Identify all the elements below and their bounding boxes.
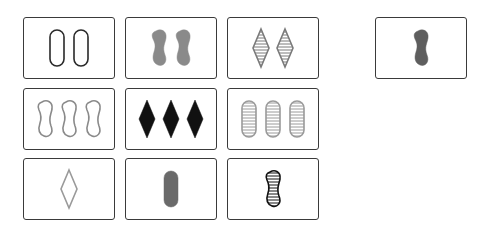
oval-solid-icon (161, 168, 181, 210)
card-6[interactable] (227, 88, 319, 150)
diamond-striped-icon (251, 27, 295, 69)
diamond-shape (253, 29, 269, 67)
diamond-shape (61, 170, 77, 208)
oval-shape (74, 30, 88, 66)
squiggle-shape (62, 101, 76, 137)
diamond-shape (163, 100, 179, 138)
oval-striped-icon (239, 98, 307, 140)
oval-shape (164, 171, 178, 207)
oval-shape (266, 101, 280, 137)
squiggle-solid-icon (411, 27, 431, 69)
diamond-empty-icon (59, 168, 79, 210)
card-4[interactable] (23, 88, 115, 150)
diamond-shape (139, 100, 155, 138)
diamond-shape (187, 100, 203, 138)
card-7[interactable] (23, 158, 115, 220)
squiggle-shape (414, 30, 428, 66)
card-8[interactable] (125, 158, 217, 220)
card-5[interactable] (125, 88, 217, 150)
squiggle-shape (86, 101, 100, 137)
answer-card[interactable] (375, 17, 467, 79)
card-9[interactable] (227, 158, 319, 220)
squiggle-solid-icon (149, 27, 193, 69)
oval-shape (50, 30, 64, 66)
card-2[interactable] (125, 17, 217, 79)
diamond-shape (277, 29, 293, 67)
squiggle-shape (266, 171, 280, 207)
card-3[interactable] (227, 17, 319, 79)
diamond-solid-icon (137, 98, 205, 140)
oval-shape (242, 101, 256, 137)
squiggle-shape (152, 30, 166, 66)
oval-shape (290, 101, 304, 137)
squiggle-shape (176, 30, 190, 66)
oval-empty-icon (47, 27, 91, 69)
card-1[interactable] (23, 17, 115, 79)
squiggle-empty-icon (35, 98, 103, 140)
squiggle-striped-icon (263, 168, 283, 210)
squiggle-shape (38, 101, 52, 137)
